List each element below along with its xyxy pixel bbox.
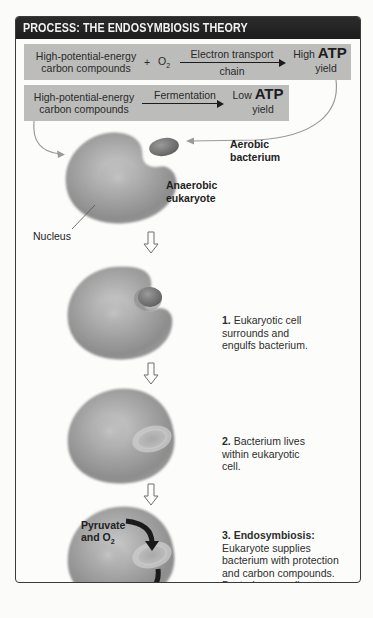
down-arrow-icon <box>143 231 159 255</box>
step-number: 2. <box>222 435 231 447</box>
label-line2: eukaryote <box>166 192 217 205</box>
aerobic-bacterium-label: Aerobic bacterium <box>230 138 280 163</box>
step-line: bacterium with protection <box>222 554 339 567</box>
oxygen-subscript: 2 <box>111 538 115 545</box>
step-line: Eukaryotic cell <box>234 314 302 326</box>
step-line: within eukaryotic <box>222 448 305 461</box>
label-line1: Anaerobic <box>166 179 217 192</box>
step-line: cell. <box>222 460 305 473</box>
diagram-frame: PROCESS: THE ENDOSYMBIOSIS THEORY High-p… <box>15 16 361 583</box>
label-line2: and O <box>81 531 111 543</box>
label-line2: bacterium <box>230 151 280 164</box>
pyruvate-label: Pyruvate and O2 <box>81 519 125 548</box>
step-line: engulfs bacterium. <box>222 339 308 352</box>
step-2-text: 2. Bacterium lives within eukaryotic cel… <box>222 435 305 473</box>
step-line: Bacterium supplies <box>222 579 339 583</box>
step-line: and carbon compounds. <box>222 567 339 580</box>
step-line: Bacterium lives <box>234 435 305 447</box>
nucleus-label: Nucleus <box>33 230 71 243</box>
anaerobic-eukaryote-label: Anaerobic eukaryote <box>166 179 217 204</box>
label-line1: Aerobic <box>230 138 280 151</box>
step-line: surrounds and <box>222 327 308 340</box>
bacterium-inside-cell <box>60 383 200 493</box>
step-number: 1. <box>222 314 231 326</box>
step-3-text: 3. Endosymbiosis: Eukaryote supplies bac… <box>222 529 339 583</box>
anaerobic-eukaryote-cell <box>60 121 200 231</box>
step-title: Endosymbiosis: <box>234 529 315 541</box>
aerobic-bacterium <box>148 136 181 159</box>
step-line: Eukaryote supplies <box>222 542 339 555</box>
step-number: 3. <box>222 529 231 541</box>
engulfed-bacterium <box>138 287 162 307</box>
engulfing-cell <box>60 257 200 367</box>
step-1-text: 1. Eukaryotic cell surrounds and engulfs… <box>222 314 308 352</box>
label-line1: Pyruvate <box>81 519 125 531</box>
